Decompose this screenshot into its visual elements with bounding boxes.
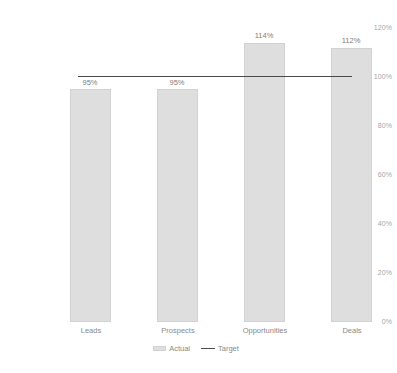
y-axis-tick-120: 120% <box>346 24 392 32</box>
bar-value-label-prospects: 95% <box>152 78 202 87</box>
bar-opportunities[interactable] <box>244 43 285 322</box>
bar-leads[interactable] <box>70 89 111 322</box>
bar-value-label-opportunities: 114% <box>239 31 289 40</box>
bar-value-label-deals: 112% <box>326 36 376 45</box>
x-axis-label-leads: Leads <box>43 326 139 336</box>
x-axis-label-prospects: Prospects <box>130 326 226 336</box>
target-line <box>78 76 352 77</box>
legend-item-actual[interactable]: Actual <box>153 344 190 353</box>
x-axis-label-opportunities: Opportunities <box>217 326 313 336</box>
bar-value-label-leads: 95% <box>65 78 115 87</box>
legend-label-actual: Actual <box>169 344 190 353</box>
legend-label-target: Target <box>218 344 239 353</box>
bar-deals[interactable] <box>331 48 372 322</box>
x-axis-label-deals: Deals <box>304 326 397 336</box>
legend-swatch-line-icon <box>201 348 215 349</box>
bar-prospects[interactable] <box>157 89 198 322</box>
legend-swatch-bar-icon <box>153 346 166 351</box>
legend-item-target[interactable]: Target <box>201 344 239 353</box>
chart-legend: Actual Target <box>0 344 392 353</box>
